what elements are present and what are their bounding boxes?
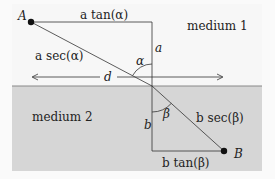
medium-2-label: medium 2 [32, 110, 93, 124]
a-sec-label: a sec(α) [35, 49, 83, 63]
point-a [28, 19, 34, 25]
b-tan-label: b tan(β) [162, 156, 210, 170]
medium-1-region [12, 4, 262, 86]
medium-1-label: medium 1 [187, 19, 248, 33]
point-b [221, 148, 227, 154]
d-label: d [104, 70, 112, 84]
refraction-diagram: A B a tan(α) a sec(α) a α d medium 1 med… [0, 0, 275, 179]
alpha-label: α [136, 54, 144, 68]
beta-label: β [162, 107, 170, 121]
point-b-label: B [233, 147, 243, 161]
b-sec-label: b sec(β) [196, 111, 244, 125]
point-a-label: A [17, 9, 27, 23]
a-label: a [155, 41, 162, 55]
medium-2-region [12, 86, 262, 171]
b-label: b [144, 118, 152, 132]
a-tan-label: a tan(α) [80, 8, 128, 22]
